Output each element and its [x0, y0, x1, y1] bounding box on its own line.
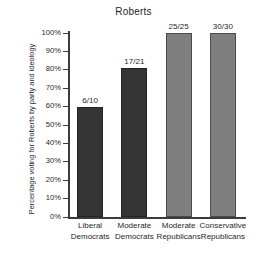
x-axis-category-label-line: Republicans [191, 232, 255, 243]
chart-title: Roberts [0, 6, 267, 17]
plot-area [68, 33, 245, 217]
y-axis-tick-label: 60% [22, 102, 61, 110]
bar[interactable] [166, 33, 192, 217]
bar-value-label: 17/21 [112, 57, 156, 66]
y-axis-tick-label: 50% [22, 121, 61, 129]
y-axis-tick-label: 0% [22, 213, 61, 221]
y-axis-tick-label: 100% [22, 29, 61, 37]
y-axis-tick-label: 10% [22, 194, 61, 202]
x-axis-category-label: ConservativeRepublicans [191, 221, 255, 242]
x-axis-category-label-line: Conservative [191, 221, 255, 232]
y-axis-tick-label: 20% [22, 176, 61, 184]
bar-value-label: 30/30 [201, 22, 245, 31]
bar-chart-figure: Roberts Percentage voting for Roberts by… [0, 0, 267, 262]
x-axis-line [68, 217, 246, 219]
bar[interactable] [77, 107, 103, 217]
y-axis-tick-label: 80% [22, 65, 61, 73]
y-axis-tick-label: 40% [22, 139, 61, 147]
y-axis-tick-label: 70% [22, 84, 61, 92]
bar-value-label: 6/10 [68, 96, 112, 105]
y-axis-tick-label: 30% [22, 157, 61, 165]
bar-value-label: 25/25 [157, 22, 201, 31]
bar[interactable] [121, 68, 147, 217]
bar[interactable] [210, 33, 236, 217]
y-axis-tick-label: 90% [22, 47, 61, 55]
